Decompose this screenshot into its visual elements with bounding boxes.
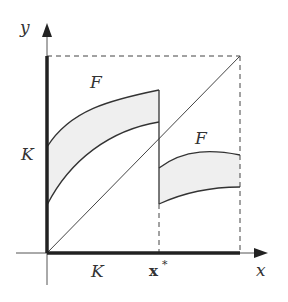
x-star-sup: * — [162, 258, 168, 271]
y-axis-arrow-icon — [42, 23, 52, 37]
x-axis-label: x — [256, 260, 266, 280]
region-left-label: F — [89, 72, 103, 92]
region-right-label: F — [194, 128, 208, 148]
y-tick-k-label: K — [20, 144, 35, 164]
x-tick-k-label: K — [90, 261, 105, 281]
x-star-label: x — [149, 262, 159, 280]
region-right-fill — [159, 152, 240, 204]
region-left-fill — [47, 90, 159, 205]
y-axis-label: y — [19, 17, 30, 37]
diagram-canvas: y x K K x * F F — [0, 0, 288, 302]
x-axis-arrow-icon — [254, 248, 268, 258]
